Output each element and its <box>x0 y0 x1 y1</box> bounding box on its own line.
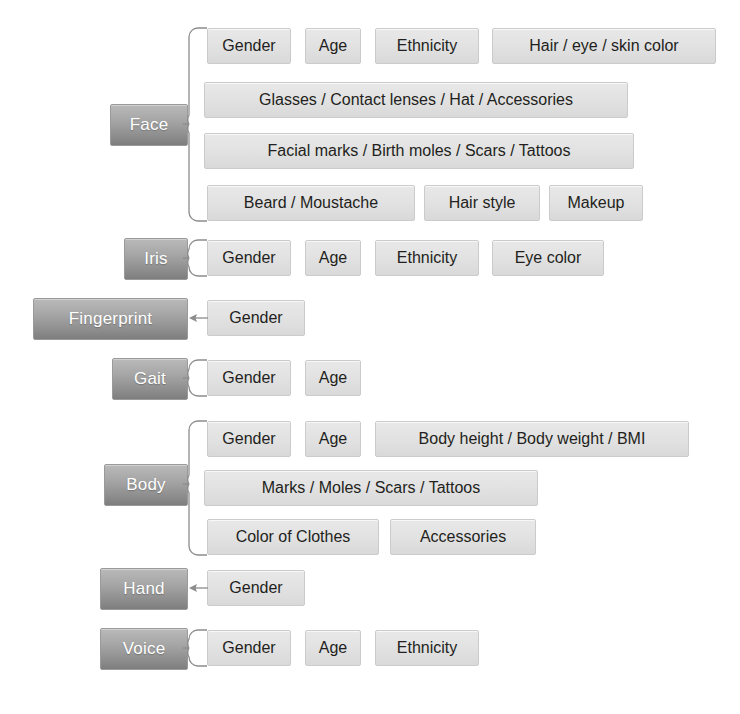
attribute-label: Age <box>319 639 347 657</box>
attribute-label: Hair / eye / skin color <box>529 37 678 55</box>
arrow-connector-hand <box>189 582 209 594</box>
attribute-box-face-1-0[interactable]: Glasses / Contact lenses / Hat / Accesso… <box>204 82 628 118</box>
attribute-box-face-0-3[interactable]: Hair / eye / skin color <box>492 28 716 64</box>
attribute-box-body-0-1[interactable]: Age <box>305 421 361 457</box>
brace-connector-voice <box>188 629 208 667</box>
attribute-label: Makeup <box>568 194 625 212</box>
attribute-label: Marks / Moles / Scars / Tattoos <box>262 479 480 497</box>
attribute-box-iris-0-2[interactable]: Ethnicity <box>375 240 479 276</box>
attribute-box-face-0-2[interactable]: Ethnicity <box>375 28 479 64</box>
attribute-label: Age <box>319 249 347 267</box>
attribute-box-body-0-2[interactable]: Body height / Body weight / BMI <box>375 421 689 457</box>
modality-label-hand: Hand <box>123 579 164 599</box>
attribute-box-body-0-0[interactable]: Gender <box>207 421 291 457</box>
attribute-box-face-3-2[interactable]: Makeup <box>549 185 643 221</box>
attribute-label: Body height / Body weight / BMI <box>419 430 646 448</box>
attribute-label: Facial marks / Birth moles / Scars / Tat… <box>268 142 571 160</box>
modality-box-hand[interactable]: Hand <box>100 568 188 610</box>
modality-label-voice: Voice <box>123 639 166 659</box>
brace-connector-gait <box>188 359 208 397</box>
attribute-label: Ethnicity <box>397 639 457 657</box>
modality-label-gait: Gait <box>134 369 166 389</box>
attribute-box-hand-0-0[interactable]: Gender <box>207 570 305 606</box>
attribute-box-iris-0-3[interactable]: Eye color <box>492 240 604 276</box>
attribute-box-iris-0-0[interactable]: Gender <box>207 240 291 276</box>
attribute-label: Gender <box>222 37 275 55</box>
attribute-label: Hair style <box>449 194 516 212</box>
attribute-label: Age <box>319 37 347 55</box>
attribute-box-body-1-0[interactable]: Marks / Moles / Scars / Tattoos <box>204 470 538 506</box>
modality-label-body: Body <box>126 475 166 495</box>
modality-box-fingerprint[interactable]: Fingerprint <box>33 298 188 340</box>
attribute-label: Gender <box>229 309 282 327</box>
attribute-label: Accessories <box>420 528 506 546</box>
attribute-box-face-3-1[interactable]: Hair style <box>424 185 540 221</box>
brace-connector-face <box>188 27 208 222</box>
arrow-connector-fingerprint <box>189 312 209 324</box>
modality-label-iris: Iris <box>144 249 167 269</box>
attribute-box-face-0-0[interactable]: Gender <box>207 28 291 64</box>
attribute-label: Gender <box>222 639 275 657</box>
attribute-box-gait-0-1[interactable]: Age <box>305 360 361 396</box>
attribute-label: Age <box>319 430 347 448</box>
attribute-box-voice-0-2[interactable]: Ethnicity <box>375 630 479 666</box>
attribute-label: Color of Clothes <box>236 528 351 546</box>
soft-biometrics-diagram: FaceGenderAgeEthnicityHair / eye / skin … <box>0 0 740 714</box>
attribute-box-face-3-0[interactable]: Beard / Moustache <box>207 185 415 221</box>
modality-box-face[interactable]: Face <box>110 104 188 146</box>
attribute-box-voice-0-1[interactable]: Age <box>305 630 361 666</box>
attribute-label: Ethnicity <box>397 249 457 267</box>
attribute-box-gait-0-0[interactable]: Gender <box>207 360 291 396</box>
attribute-box-face-2-0[interactable]: Facial marks / Birth moles / Scars / Tat… <box>204 133 634 169</box>
attribute-label: Beard / Moustache <box>244 194 378 212</box>
attribute-box-voice-0-0[interactable]: Gender <box>207 630 291 666</box>
modality-label-fingerprint: Fingerprint <box>69 309 152 329</box>
modality-box-gait[interactable]: Gait <box>112 358 188 400</box>
attribute-label: Eye color <box>515 249 582 267</box>
modality-box-iris[interactable]: Iris <box>124 238 188 280</box>
attribute-box-face-0-1[interactable]: Age <box>305 28 361 64</box>
attribute-label: Glasses / Contact lenses / Hat / Accesso… <box>259 91 573 109</box>
attribute-box-iris-0-1[interactable]: Age <box>305 240 361 276</box>
attribute-box-body-2-0[interactable]: Color of Clothes <box>207 519 379 555</box>
brace-connector-iris <box>188 239 208 277</box>
attribute-label: Age <box>319 369 347 387</box>
attribute-label: Ethnicity <box>397 37 457 55</box>
attribute-box-body-2-1[interactable]: Accessories <box>390 519 536 555</box>
modality-box-body[interactable]: Body <box>104 464 188 506</box>
attribute-label: Gender <box>229 579 282 597</box>
modality-box-voice[interactable]: Voice <box>100 628 188 670</box>
attribute-label: Gender <box>222 369 275 387</box>
attribute-box-fingerprint-0-0[interactable]: Gender <box>207 300 305 336</box>
attribute-label: Gender <box>222 430 275 448</box>
attribute-label: Gender <box>222 249 275 267</box>
modality-label-face: Face <box>130 115 169 135</box>
